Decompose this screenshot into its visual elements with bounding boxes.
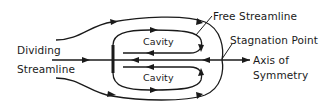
stagnation-point-label: Stagnation Point [230, 35, 318, 46]
axis-arrow-right-icon [242, 57, 250, 63]
cavity-bottom-forward-arrow-icon [150, 87, 158, 93]
dividing-streamline-line1: Dividing [17, 45, 61, 56]
cavity-top-forward-arrow-icon [150, 27, 158, 33]
free-streamline-label: Free Streamline [213, 11, 297, 22]
axis-arrow-back-icon [131, 57, 139, 63]
axis-label-line2: Symmetry [253, 70, 308, 81]
axis-arrow-stagnation-icon [202, 57, 210, 63]
dividing-streamline-line2: Streamline [17, 64, 75, 75]
cavity-label-bottom: Cavity [143, 73, 174, 83]
axis-label-line1: Axis of [253, 55, 289, 66]
axis-arrow-left-icon [82, 57, 90, 63]
cavity-label-top: Cavity [143, 37, 174, 47]
stagnation-point-leader [222, 44, 232, 59]
free-streamline-leader [196, 16, 212, 35]
cavity-bottom-return-arrow-icon [146, 64, 154, 70]
outer-top-arrow-icon [110, 19, 118, 25]
cavity-top-return-arrow-icon [146, 50, 154, 56]
